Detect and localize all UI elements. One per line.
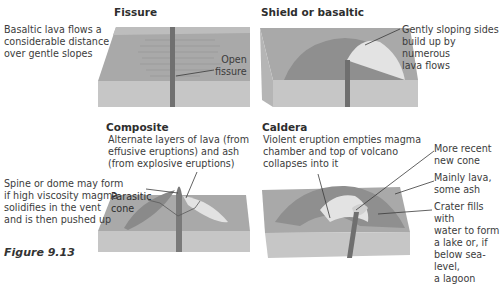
violent-eruption-label: Violent eruption empties magma chamber a… — [263, 134, 421, 170]
shield-block — [260, 28, 418, 107]
caldera-title: Caldera — [262, 121, 307, 133]
parasitic-cone-label: Parasitic cone — [111, 191, 151, 215]
composite-title: Composite — [106, 121, 169, 133]
fissure-description: Basaltic lava flows a considerable dista… — [4, 24, 109, 60]
shield-vent — [345, 60, 350, 107]
crater-lake-label: Crater fills with water to form a lake o… — [434, 201, 500, 285]
spine-dome-label: Spine or dome may form if high viscosity… — [4, 178, 123, 226]
new-cone-label: More recent new cone — [434, 143, 492, 167]
mainly-lava-label: Mainly lava, some ash — [434, 172, 491, 196]
open-fissure-label: Open fissure — [215, 54, 247, 78]
gently-sloping-label: Gently sloping sides build up by numerou… — [402, 24, 500, 72]
composite-vent-spine — [176, 187, 182, 253]
fissure-vent — [170, 27, 175, 107]
composite-block-front — [98, 231, 250, 252]
alternate-layers-label: Alternate layers of lava (from effusive … — [108, 134, 249, 170]
figure-caption: Figure 9.13 — [4, 246, 75, 259]
fissure-title: Fissure — [114, 6, 157, 18]
layers-leader — [186, 172, 197, 198]
shield-title: Shield or basaltic — [261, 6, 364, 18]
caldera-block-front — [265, 232, 410, 258]
